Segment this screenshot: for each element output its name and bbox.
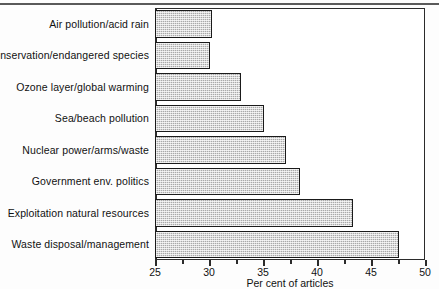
- bar-row: Waste disposal/management: [0, 229, 439, 261]
- bar-rows: Air pollution/acid rainConservation/enda…: [0, 8, 439, 260]
- bar-category-label: Exploitation natural resources: [8, 207, 149, 219]
- bar-track: [155, 166, 425, 198]
- top-divider-rule: [0, 3, 439, 5]
- bar-track: [155, 229, 425, 261]
- x-axis-label: Per cent of articles: [155, 277, 425, 289]
- bar-track: [155, 71, 425, 103]
- x-tick-minor: [344, 260, 346, 264]
- bar-row: Nuclear power/arms/waste: [0, 134, 439, 166]
- x-tick-minor: [236, 260, 238, 264]
- bar-track: [155, 197, 425, 229]
- bar: [155, 73, 241, 101]
- bar: [155, 10, 212, 38]
- bar: [155, 105, 264, 133]
- bar-category-label: Government env. politics: [32, 175, 149, 187]
- bar: [155, 136, 286, 164]
- x-tick-minor: [290, 260, 292, 264]
- bar-row: Government env. politics: [0, 166, 439, 198]
- bar-track: [155, 103, 425, 135]
- bar-track: [155, 8, 425, 40]
- bar-track: [155, 40, 425, 72]
- x-tick-minor: [398, 260, 400, 264]
- bar-category-label: Conservation/endangered species: [0, 49, 149, 61]
- bar-row: Ozone layer/global warming: [0, 71, 439, 103]
- bar-category-label: Air pollution/acid rain: [49, 18, 149, 30]
- bar: [155, 199, 353, 227]
- bar-category-label: Ozone layer/global warming: [16, 81, 149, 93]
- bar-category-label: Sea/beach pollution: [55, 112, 149, 124]
- bar: [155, 42, 210, 70]
- bar-category-label: Waste disposal/management: [11, 238, 149, 250]
- bar-category-label: Nuclear power/arms/waste: [22, 144, 149, 156]
- bar: [155, 168, 300, 196]
- bar-row: Conservation/endangered species: [0, 40, 439, 72]
- chart-figure: Air pollution/acid rainConservation/enda…: [0, 0, 439, 289]
- bar-track: [155, 134, 425, 166]
- x-tick-minor: [182, 260, 184, 264]
- bar-row: Air pollution/acid rain: [0, 8, 439, 40]
- bar-row: Exploitation natural resources: [0, 197, 439, 229]
- bar-row: Sea/beach pollution: [0, 103, 439, 135]
- bar: [155, 231, 399, 259]
